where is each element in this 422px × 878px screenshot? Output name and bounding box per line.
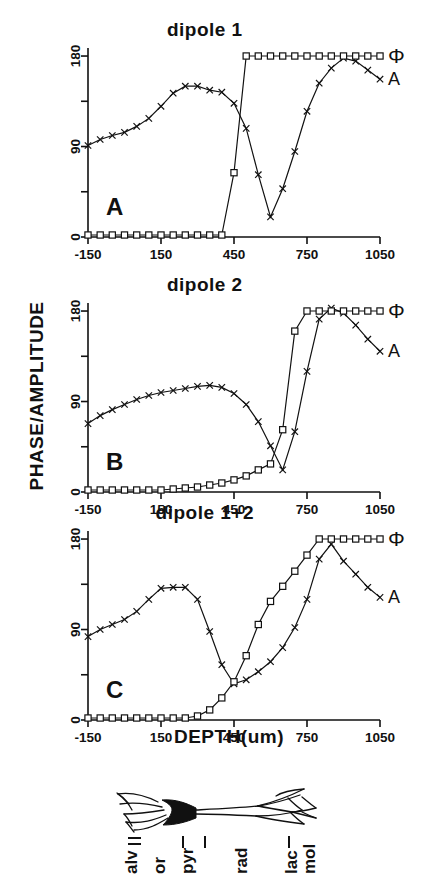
panel-b: 090180-1501504507501050dipole 2BΦA — [0, 255, 422, 495]
phase-series-label: Φ — [388, 527, 405, 550]
panel-title: dipole 2 — [167, 274, 243, 295]
figure-root: PHASE/AMPLITUDE 090180-1501504507501050d… — [0, 0, 422, 878]
y-tick-label: 90 — [68, 139, 83, 154]
series-line-phase — [88, 539, 380, 718]
apical-dendrites — [196, 789, 316, 824]
x-axis-label: DEPTH(um) — [0, 726, 422, 748]
amplitude-series-label: A — [388, 587, 400, 607]
series-line-phase — [88, 56, 380, 235]
basal-dendrites — [117, 793, 168, 832]
layer-label-rad: rad — [232, 848, 252, 874]
y-tick-label: 0 — [68, 716, 83, 724]
amplitude-series-label: A — [388, 341, 400, 361]
x-axis-ticks — [88, 237, 380, 244]
panel-c: 090180-1501504507501050dipole 1+2CΦA — [0, 483, 422, 723]
morphology-svg — [0, 752, 422, 878]
phase-series-label: Φ — [388, 299, 405, 322]
panel-letter: B — [106, 448, 123, 475]
x-axis-label-text: DEPTH(um) — [138, 726, 284, 747]
amplitude-series-label: A — [388, 69, 400, 89]
layer-label-or: or — [150, 857, 170, 874]
panel-title: dipole 1+2 — [156, 502, 254, 523]
y-tick-label: 180 — [68, 45, 83, 68]
series-line-amplitude — [88, 58, 380, 217]
layer-label-lac: lac — [282, 850, 302, 874]
axis-lines — [88, 303, 380, 492]
layer-label-mol: mol — [300, 844, 320, 874]
axis-lines — [88, 531, 380, 720]
series-markers-amplitude — [85, 55, 383, 220]
neuron-morphology-diagram: alv or pyr rad lac mol — [0, 752, 422, 878]
series-markers-phase — [85, 308, 383, 493]
panel-letter: C — [106, 676, 123, 703]
series-markers-phase — [85, 536, 383, 721]
panel-a: 090180-1501504507501050dipole 1AΦA — [0, 0, 422, 262]
soma — [162, 800, 196, 825]
series-markers-amplitude — [85, 541, 383, 687]
series-markers-phase — [85, 53, 383, 238]
axis-lines — [88, 48, 380, 237]
y-tick-label: 0 — [68, 233, 83, 241]
phase-series-label: Φ — [388, 44, 405, 67]
plot-a: 090180-1501504507501050dipole 1AΦA — [0, 0, 422, 262]
series-line-amplitude — [88, 308, 380, 470]
layer-label-pyr: pyr — [178, 848, 198, 874]
panel-letter: A — [106, 193, 123, 220]
series-line-amplitude — [88, 544, 380, 684]
series-markers-amplitude — [85, 305, 383, 473]
y-tick-label: 90 — [68, 622, 83, 637]
panel-title: dipole 1 — [167, 19, 243, 40]
y-tick-label: 180 — [68, 528, 83, 551]
plot-c: 090180-1501504507501050dipole 1+2CΦA — [0, 483, 422, 745]
plot-b: 090180-1501504507501050dipole 2BΦA — [0, 255, 422, 517]
y-tick-label: 180 — [68, 300, 83, 323]
series-line-phase — [88, 311, 380, 490]
layer-label-alv: alv — [122, 850, 142, 874]
y-tick-label: 90 — [68, 394, 83, 409]
